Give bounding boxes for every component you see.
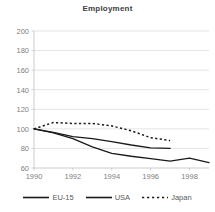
plot-area: 6080100120140160180200 19901992199419961…	[0, 0, 215, 212]
y-axis-tick-labels: 6080100120140160180200	[16, 27, 29, 173]
y-tick-label: 140	[16, 86, 29, 95]
legend-item-usa[interactable]: USA	[86, 193, 130, 202]
y-tick-label: 120	[16, 105, 29, 114]
x-tick-label: 1996	[142, 172, 159, 181]
y-tick-label: 160	[16, 66, 29, 75]
legend-label: Japan	[171, 193, 191, 202]
gridlines	[32, 31, 210, 168]
legend-label: USA	[115, 193, 130, 202]
chart-legend: EU-15USAJapan	[0, 188, 215, 206]
y-tick-label: 80	[21, 144, 29, 153]
legend-item-japan[interactable]: Japan	[142, 193, 191, 202]
y-tick-label: 100	[16, 125, 29, 134]
legend-swatch-solid	[23, 194, 49, 201]
series-line-usa	[34, 129, 170, 149]
x-tick-label: 1998	[181, 172, 198, 181]
legend-swatch-solid	[86, 194, 112, 201]
x-tick-label: 1992	[65, 172, 82, 181]
axis-lines	[34, 31, 209, 168]
y-tick-label: 180	[16, 46, 29, 55]
x-tick-label: 1994	[103, 172, 120, 181]
legend-swatch-dotted	[142, 194, 168, 201]
y-tick-label: 200	[16, 27, 29, 36]
employment-line-chart: Employment 6080100120140160180200 199019…	[0, 0, 215, 212]
x-tick-label: 1990	[26, 172, 43, 181]
series-line-japan	[34, 123, 170, 141]
x-axis-tick-labels: 19901992199419961998	[26, 172, 198, 181]
legend-label: EU-15	[52, 193, 73, 202]
legend-item-eu-15[interactable]: EU-15	[23, 193, 73, 202]
